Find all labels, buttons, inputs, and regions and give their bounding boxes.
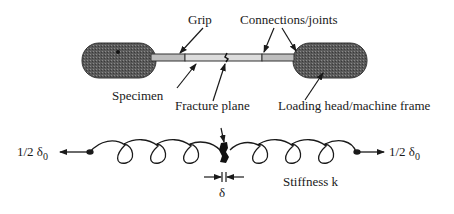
specimen — [185, 54, 262, 61]
label-displacement-right: 1/2 δ0 — [389, 145, 420, 162]
label-specimen: Specimen — [112, 89, 163, 102]
fracture-blob — [219, 142, 229, 163]
label-delta: δ — [219, 186, 225, 199]
specimen-bar — [151, 53, 294, 62]
grip-right — [262, 54, 294, 61]
label-fracture-plane: Fracture plane — [175, 99, 250, 112]
label-displacement-left: 1/2 δ0 — [17, 145, 48, 162]
label-connections-joints: Connections/joints — [240, 13, 338, 26]
delta-gap-marker — [204, 172, 244, 182]
label-loading-head: Loading head/machine frame — [278, 99, 430, 112]
grip-left — [151, 54, 185, 61]
label-stiffness: Stiffness k — [283, 175, 338, 188]
loading-head-right — [293, 43, 367, 78]
label-grip: Grip — [188, 13, 212, 26]
loading-head-left — [82, 43, 156, 78]
